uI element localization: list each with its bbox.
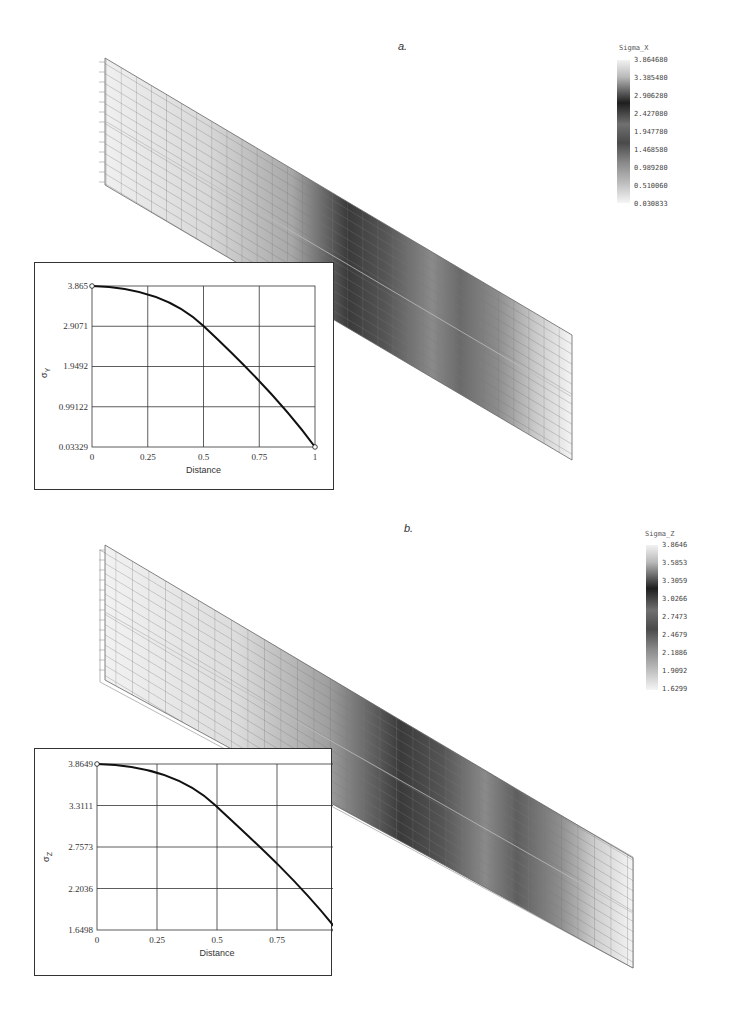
- inset-chart-a-plot: 3.865 2.9071 1.9492 0.99122 0.03329 0 0.…: [35, 263, 335, 491]
- colorbar-b-title: Sigma_Z: [645, 530, 675, 538]
- inset-b-ytick: 2.2036: [68, 884, 93, 894]
- colorbar-a-tick: 3.864680: [634, 56, 668, 64]
- inset-a-xtick: 0.75: [251, 452, 267, 462]
- inset-b-xlabel: Distance: [199, 948, 234, 958]
- colorbar-a: [617, 60, 630, 203]
- inset-a-xtick: 0.5: [198, 452, 210, 462]
- colorbar-a-title: Sigma_X: [619, 44, 649, 52]
- colorbar-b-tick: 2.1886: [662, 649, 687, 657]
- colorbar-b-tick: 1.9092: [662, 667, 687, 675]
- inset-b-ytick: 2.7573: [68, 842, 93, 852]
- colorbar-b-tick: 3.8646: [662, 541, 687, 549]
- inset-a-xtick: 0.25: [140, 452, 156, 462]
- inset-a-start-point: [90, 284, 95, 289]
- inset-a-xlabel: Distance: [186, 465, 221, 475]
- inset-a-ytick: 3.865: [68, 281, 89, 291]
- inset-b-xtick: 0: [95, 935, 100, 945]
- colorbar-a-tick: 1.947780: [634, 128, 668, 136]
- inset-b-ytick: 1.6498: [68, 925, 93, 935]
- inset-a-xtick: 1: [313, 452, 318, 462]
- colorbar-b-tick: 1.6299: [662, 685, 687, 693]
- colorbar-b-tick: 2.4679: [662, 631, 687, 639]
- inset-chart-a: 3.865 2.9071 1.9492 0.99122 0.03329 0 0.…: [34, 262, 334, 490]
- colorbar-a-tick: 2.906280: [634, 92, 668, 100]
- colorbar-b-tick: 3.3059: [662, 577, 687, 585]
- colorbar-a-tick: 1.468580: [634, 146, 668, 154]
- colorbar-a-tick: 2.427080: [634, 110, 668, 118]
- inset-chart-b: 3.8649 3.3111 2.7573 2.2036 1.6498 0 0.2…: [34, 748, 332, 976]
- svg-text:σZ: σZ: [41, 851, 53, 862]
- colorbar-b: [646, 545, 658, 690]
- inset-a-ytick: 0.99122: [59, 402, 88, 412]
- colorbar-a-tick: 0.510060: [634, 182, 668, 190]
- colorbar-a-tick: 0.989280: [634, 164, 668, 172]
- inset-chart-b-plot: 3.8649 3.3111 2.7573 2.2036 1.6498 0 0.2…: [35, 749, 333, 977]
- inset-a-end-point: [313, 445, 318, 450]
- inset-b-ytick: 3.8649: [68, 759, 93, 769]
- inset-a-xtick: 0: [90, 452, 95, 462]
- inset-b-xtick: 0.25: [149, 935, 165, 945]
- inset-b-ylabel: σZ: [41, 851, 53, 862]
- colorbar-b-tick: 3.0266: [662, 595, 687, 603]
- boundary-condition-marks-a: [99, 62, 105, 182]
- inset-b-start-point: [95, 762, 100, 767]
- inset-a-ytick: 2.9071: [63, 321, 88, 331]
- inset-b-xtick: 0.75: [269, 935, 285, 945]
- colorbar-a-tick: 0.030833: [634, 200, 668, 208]
- inset-a-ylabel: σY: [39, 368, 51, 379]
- inset-a-ytick: 1.9492: [63, 361, 88, 371]
- inset-b-grid: [97, 764, 333, 930]
- colorbar-b-tick: 2.7473: [662, 613, 687, 621]
- colorbar-a-tick: 3.385480: [634, 74, 668, 82]
- svg-text:σY: σY: [39, 368, 51, 379]
- colorbar-b-tick: 3.5853: [662, 559, 687, 567]
- inset-b-ytick: 3.3111: [69, 801, 93, 811]
- inset-b-xtick: 0.5: [211, 935, 223, 945]
- inset-a-ytick: 0.03329: [59, 442, 89, 452]
- inset-a-grid: [92, 286, 315, 447]
- panel-b-label: b.: [404, 522, 413, 534]
